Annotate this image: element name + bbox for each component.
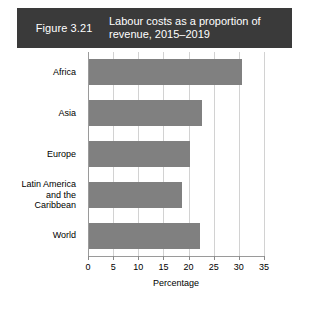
y-axis-label-line: World — [0, 230, 76, 241]
bar — [89, 59, 242, 85]
gridline-35 — [264, 52, 265, 256]
bar — [89, 223, 200, 249]
figure-title: Labour costs as a proportion of revenue,… — [107, 15, 286, 42]
y-axis-label-world: World — [0, 230, 76, 241]
y-axis-label-line: Asia — [0, 108, 76, 119]
x-axis-tick-15 — [163, 256, 164, 260]
x-axis-tick-label-5: 5 — [101, 262, 125, 273]
y-axis-label-asia: Asia — [0, 108, 76, 119]
x-axis-tick-label-0: 0 — [76, 262, 100, 273]
x-axis-tick-20 — [189, 256, 190, 260]
x-axis-title: Percentage — [88, 278, 264, 289]
x-axis-tick-label-30: 30 — [227, 262, 251, 273]
x-axis-line — [88, 256, 264, 257]
x-axis-tick-label-20: 20 — [177, 262, 201, 273]
x-axis: Percentage 05101520253035 — [88, 256, 264, 316]
x-axis-tick-label-35: 35 — [252, 262, 276, 273]
x-axis-tick-label-15: 15 — [151, 262, 175, 273]
y-axis-label-line: Latin America — [0, 179, 76, 190]
figure-number-label: Figure 3.21 — [21, 22, 107, 35]
y-axis-label-europe: Europe — [0, 149, 76, 160]
chart-plot-area: AfricaAsiaEuropeLatin Americaand theCari… — [0, 52, 309, 316]
bar — [89, 100, 202, 126]
y-axis-label-line: Africa — [0, 67, 76, 78]
x-axis-tick-label-10: 10 — [126, 262, 150, 273]
x-axis-tick-25 — [214, 256, 215, 260]
x-axis-tick-label-25: 25 — [202, 262, 226, 273]
figure-container: Figure 3.21 Labour costs as a proportion… — [0, 0, 309, 316]
x-axis-tick-30 — [239, 256, 240, 260]
bar — [89, 141, 190, 167]
x-axis-tick-10 — [138, 256, 139, 260]
y-axis-label-africa: Africa — [0, 67, 76, 78]
figure-header-band: Figure 3.21 Labour costs as a proportion… — [17, 8, 292, 48]
y-axis-label-line: Europe — [0, 149, 76, 160]
y-axis-label-line: Caribbean — [0, 200, 76, 211]
bar — [89, 182, 182, 208]
x-axis-tick-35 — [264, 256, 265, 260]
x-axis-tick-0 — [88, 256, 89, 260]
bars-container — [88, 52, 264, 256]
y-axis-category-labels: AfricaAsiaEuropeLatin Americaand theCari… — [0, 52, 82, 256]
x-axis-tick-5 — [113, 256, 114, 260]
y-axis-label-line: and the — [0, 190, 76, 201]
y-axis-label-latin-america-and-the-caribbean: Latin Americaand theCaribbean — [0, 179, 76, 211]
